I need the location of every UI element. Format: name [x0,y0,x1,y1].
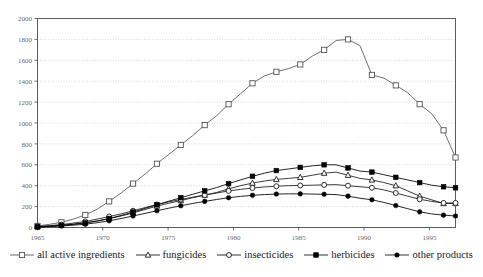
data-point-marker [250,81,255,86]
data-point-marker [179,195,184,200]
data-point-marker [154,161,159,166]
open-triangle-icon [136,250,160,260]
y-axis-tick-label: 1000 [18,120,33,128]
data-point-marker [322,47,327,52]
data-point-marker [322,182,327,187]
data-point-marker [83,212,88,217]
y-axis-tick-label: 1400 [18,78,33,86]
x-axis-tick-label: 1995 [422,234,437,242]
data-point-marker [441,128,446,133]
x-axis-tick-label: 1970 [96,234,111,242]
y-axis-tick-label: 400 [22,182,33,190]
data-point-marker [453,200,458,205]
data-point-marker [131,214,136,219]
data-point-marker [393,191,398,196]
data-point-marker [20,252,25,257]
data-point-marker [298,165,303,170]
data-point-marker [346,194,351,199]
data-point-marker [107,219,112,224]
series-line [38,194,456,227]
data-point-marker [393,203,398,208]
x-axis-tick-label: 1965 [31,234,46,242]
data-point-marker [346,183,351,188]
data-point-marker [453,155,458,160]
filled-square-icon [304,250,328,260]
legend-item-insecticides[interactable]: insecticides [217,249,293,260]
data-point-marker [178,142,183,147]
data-point-marker [179,203,184,208]
data-point-marker [369,72,374,77]
legend-item-herbicides[interactable]: herbicides [304,249,374,260]
x-axis: 1965197019751980198519901995 [31,228,437,243]
data-point-marker [322,163,327,168]
legend-item-label: herbicides [331,249,374,260]
data-point-marker [59,224,64,229]
y-axis-tick-label: 600 [22,161,33,169]
data-point-marker [370,198,375,203]
data-point-marker [370,170,375,175]
legend-item-label: other products [412,249,472,260]
data-point-marker [441,213,446,218]
data-point-marker [274,69,279,74]
y-axis-tick-label: 1600 [18,57,33,65]
data-point-marker [155,202,160,207]
data-point-marker [202,199,207,204]
data-point-marker [250,174,255,179]
x-axis-tick-label: 1990 [357,234,372,242]
legend-item-fungicides[interactable]: fungicides [136,249,207,260]
legend-item-label: all active ingredients [37,249,124,260]
y-axis-tick-label: 200 [22,203,33,211]
data-point-marker [226,195,231,200]
data-point-marker [395,252,400,257]
chart-legend: all active ingredientsfungicidesinsectic… [0,249,483,260]
legend-item-label: insecticides [244,249,293,260]
data-point-marker [202,189,207,194]
data-point-marker [345,37,350,42]
data-point-marker [298,62,303,67]
data-point-marker [83,222,88,227]
data-point-marker [130,181,135,186]
data-point-marker [417,102,422,107]
data-point-marker [441,200,446,205]
legend-item-other-products[interactable]: other products [385,249,472,260]
data-point-marker [227,252,232,257]
y-axis-tick-label: 2000 [18,15,33,23]
data-point-marker [298,183,303,188]
filled-circle-icon [385,250,409,260]
data-point-marker [298,192,303,197]
data-point-marker [35,225,40,230]
data-point-marker [322,192,327,197]
data-point-marker [393,83,398,88]
data-point-marker [274,184,279,189]
data-point-marker [155,208,160,213]
x-axis-tick-label: 1975 [161,234,176,242]
y-axis-tick-label: 1800 [18,36,33,44]
data-point-marker [226,102,231,107]
chart-root: 0200400600800100012001400160018002000196… [0,0,483,277]
legend-item-all-active-ingredients[interactable]: all active ingredients [10,249,124,260]
data-point-marker [202,122,207,127]
data-point-marker [226,181,231,186]
series-line [38,39,456,226]
x-axis-tick-label: 1985 [292,234,307,242]
pesticide-usage-line-chart: 0200400600800100012001400160018002000196… [0,0,483,277]
y-axis-tick-label: 0 [29,224,33,232]
open-circle-icon [217,250,241,260]
series-other-products [35,192,458,230]
y-axis: 0200400600800100012001400160018002000 [18,15,38,232]
open-square-icon [10,250,34,260]
data-point-marker [346,166,351,171]
y-axis-tick-label: 1200 [18,99,33,107]
x-axis-tick-label: 1980 [226,234,241,242]
data-point-marker [226,188,231,193]
data-point-marker [369,185,374,190]
legend-item-label: fungicides [163,249,207,260]
data-point-marker [107,199,112,204]
data-point-marker [417,197,422,202]
data-point-marker [274,168,279,173]
data-point-marker [393,175,398,180]
data-point-marker [417,180,422,185]
data-point-marker [453,185,458,190]
series-all-active-ingredients [35,37,458,229]
data-point-marker [417,210,422,215]
